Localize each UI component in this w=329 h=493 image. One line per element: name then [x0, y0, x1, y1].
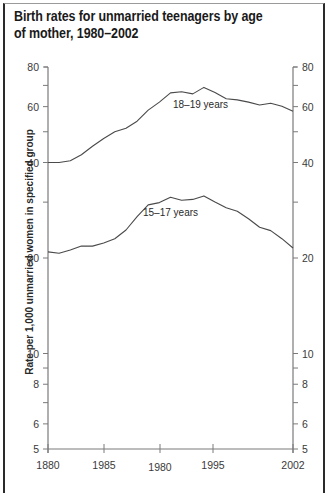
x-tick-label: 2002 [281, 459, 305, 471]
y-tick-label-right: 5 [302, 443, 308, 455]
x-tick-label: 1995 [201, 459, 225, 471]
data-lines [48, 87, 293, 253]
y-tick-label-left: 60 [27, 101, 39, 113]
y-axis-title: Rate per 1,000 unmarried women in specif… [24, 129, 35, 375]
y-tick-label-right: 6 [302, 418, 308, 430]
series-label-15-17: 15–17 years [143, 207, 198, 218]
x-tick-label: 1880 [36, 459, 60, 471]
y-tick-label-left: 80 [27, 61, 39, 73]
series-label-18-19: 18–19 years [173, 99, 228, 110]
y-tick-label-right: 60 [302, 101, 314, 113]
y-tick-label-left: 5 [33, 443, 39, 455]
y-tick-label-right: 80 [302, 61, 314, 73]
series-line-15-17 [48, 196, 293, 253]
axes: 8080606040402020101088665518801985198019… [27, 61, 314, 473]
y-tick-label-right: 20 [302, 252, 314, 264]
y-tick-label-left: 8 [33, 378, 39, 390]
x-tick-label: 1980 [148, 461, 172, 473]
series-line-18-19 [48, 87, 293, 162]
y-tick-label-right: 8 [302, 378, 308, 390]
y-tick-label-right: 40 [302, 157, 314, 169]
y-tick-label-left: 6 [33, 418, 39, 430]
x-tick-label: 1985 [92, 459, 116, 471]
y-tick-label-right: 10 [302, 348, 314, 360]
